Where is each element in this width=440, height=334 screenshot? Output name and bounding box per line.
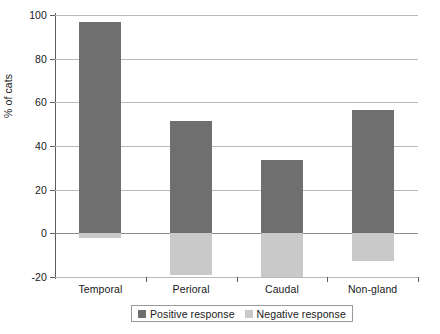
x-tick-mark-1 — [146, 277, 147, 282]
y-tick-label-60: 60 — [35, 96, 47, 108]
gridline-100 — [55, 15, 418, 16]
y-tick-mark-100 — [50, 15, 55, 16]
legend-label-positive: Positive response — [150, 308, 235, 320]
y-tick-label-0: 0 — [41, 227, 47, 239]
x-tick-mark-3 — [327, 277, 328, 282]
y-tick-label-40: 40 — [35, 140, 47, 152]
x-tick-mark-end — [418, 277, 419, 282]
y-tick-label-20: 20 — [35, 184, 47, 196]
y-tick-mark-80 — [50, 59, 55, 60]
y-tick-label-100: 100 — [29, 9, 47, 21]
bar-caudal-negative — [261, 233, 303, 277]
x-tick-label-non-gland: Non-gland — [348, 283, 397, 295]
bar-perioral-negative — [170, 233, 212, 275]
bar-temporal-positive — [79, 22, 121, 234]
bar-non-gland-negative — [352, 233, 394, 260]
y-tick-mark--20 — [50, 277, 55, 278]
x-tick-label-temporal: Temporal — [78, 283, 122, 295]
x-tick-label-caudal: Caudal — [265, 283, 299, 295]
legend-swatch-positive — [138, 310, 146, 318]
bar-chart-figure: % of cats -20020406080100 TemporalPerior… — [0, 0, 440, 334]
legend-label-negative: Negative response — [257, 308, 346, 320]
y-tick-mark-40 — [50, 146, 55, 147]
y-tick-mark-0 — [50, 233, 55, 234]
x-tick-label-perioral: Perioral — [173, 283, 210, 295]
y-axis-title: % of cats — [2, 74, 14, 118]
bar-temporal-negative — [79, 233, 121, 237]
y-tick-mark-60 — [50, 102, 55, 103]
bar-caudal-positive — [261, 160, 303, 233]
legend-item-negative: Negative response — [245, 308, 346, 320]
plot-area — [55, 15, 418, 277]
bar-perioral-positive — [170, 121, 212, 233]
y-tick-label-80: 80 — [35, 53, 47, 65]
y-tick-label--20: -20 — [32, 271, 47, 283]
x-tick-mark-2 — [237, 277, 238, 282]
legend-swatch-negative — [245, 310, 253, 318]
legend-item-positive: Positive response — [138, 308, 235, 320]
chart-legend: Positive response Negative response — [131, 305, 353, 322]
y-tick-mark-20 — [50, 190, 55, 191]
bar-non-gland-positive — [352, 110, 394, 233]
